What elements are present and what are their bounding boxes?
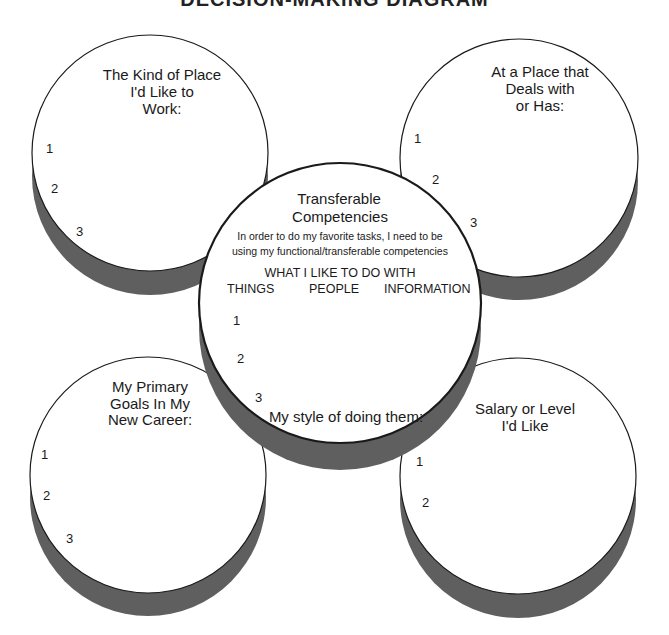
list-number[interactable]: 1 [414,131,421,146]
circle-title-line: I'd Like [501,417,548,434]
circle-title-line: Transferable [297,190,381,207]
list-number[interactable]: 1 [46,141,53,156]
what-heading: WHAT I LIKE TO DO WITH [264,266,415,280]
column-things: THINGS [227,282,274,296]
list-number[interactable]: 1 [41,447,48,462]
circle-title-line: At a Place that [491,63,589,80]
circle-title-line: Goals In My [110,395,191,412]
decision-diagram: The Kind of Place I'd Like to Work: 1 2 … [0,0,669,635]
list-number[interactable]: 3 [76,224,83,239]
list-number[interactable]: 3 [470,215,477,230]
circle-title-line: New Career: [108,411,192,428]
list-number[interactable]: 2 [432,172,439,187]
circle-title-line: Salary or Level [475,400,575,417]
list-number[interactable]: 2 [51,181,58,196]
list-number[interactable]: 3 [66,531,73,546]
circle-title-line: My Primary [112,378,188,395]
list-number[interactable]: 1 [233,313,240,328]
circle-subtitle-line: In order to do my favorite tasks, I need… [237,230,443,242]
circle-title-line: I'd Like to [130,83,194,100]
style-label: My style of doing them: [269,408,423,425]
list-number[interactable]: 2 [237,351,244,366]
list-number[interactable]: 2 [422,495,429,510]
circle-title-line: or Has: [516,97,564,114]
circle-title-line: Work: [143,100,182,117]
circle-title-line: Competencies [292,208,388,225]
circle-transferable-competencies: Transferable Competencies In order to do… [199,163,481,470]
column-people: PEOPLE [309,282,359,296]
list-number[interactable]: 3 [255,390,262,405]
circle-subtitle-line: using my functional/transferable compete… [232,245,448,257]
list-number[interactable]: 2 [43,488,50,503]
list-number[interactable]: 1 [416,454,423,469]
circle-title-line: Deals with [505,80,574,97]
column-information: INFORMATION [384,282,471,296]
circle-title-line: The Kind of Place [103,66,221,83]
